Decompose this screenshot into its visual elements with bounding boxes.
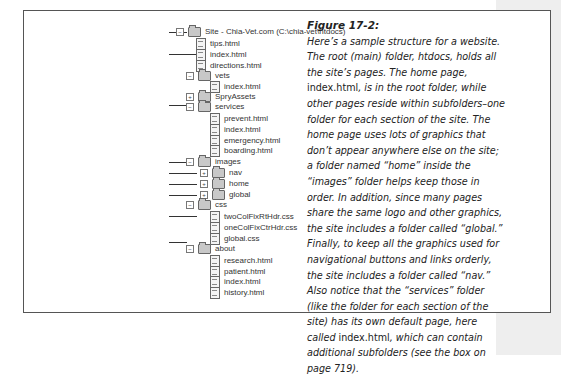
tree-item-label: SpryAssets	[215, 92, 255, 102]
caption-fragment: index.html	[339, 332, 390, 343]
leader-line	[169, 173, 197, 174]
tree-item-label: home	[229, 179, 249, 189]
tree-item-label: index.html	[210, 50, 246, 60]
file-icon	[210, 145, 220, 157]
tree-item-label: global	[229, 190, 250, 200]
caption-fragment: index.html	[307, 82, 358, 93]
tree-item-label: index.html	[224, 125, 260, 135]
tree-item-label: about	[215, 244, 235, 254]
collapse-icon[interactable]: −	[186, 103, 194, 111]
leader-line	[169, 242, 187, 243]
folder-icon	[212, 190, 225, 200]
figure-caption-body: Here’s a sample structure for a website.…	[307, 36, 505, 374]
tree-item-label: css	[215, 200, 227, 210]
folder-icon	[198, 71, 211, 81]
expand-icon[interactable]: +	[200, 169, 208, 177]
caption-fragment: Here’s a sample structure for a website.…	[307, 36, 500, 78]
leader-line	[169, 216, 197, 217]
leader-line	[169, 162, 187, 163]
folder-icon	[198, 200, 211, 210]
tree-file-item[interactable]: boarding.html	[210, 145, 272, 157]
tree-item-label: nav	[229, 168, 242, 178]
tree-file-item[interactable]: history.html	[210, 287, 264, 299]
tree-item-label: research.html	[224, 256, 272, 266]
collapse-icon[interactable]: −	[176, 28, 184, 36]
expand-icon[interactable]: +	[200, 180, 208, 188]
collapse-icon[interactable]: −	[186, 201, 194, 209]
collapse-icon[interactable]: −	[186, 72, 194, 80]
leader-line	[169, 184, 197, 185]
tree-item-label: vets	[215, 71, 230, 81]
tree-item-label: boarding.html	[224, 146, 272, 156]
tree-folder-item[interactable]: −css	[186, 200, 227, 210]
figure-title: Figure 17-2:	[307, 18, 507, 34]
folder-icon	[188, 27, 201, 37]
folder-icon	[198, 157, 211, 167]
tree-item-label: oneColFixCtrHdr.css	[224, 223, 297, 233]
caption-fragment: , is in the root folder, while other pag…	[307, 82, 505, 343]
file-icon	[210, 287, 220, 299]
expand-icon[interactable]: +	[186, 93, 194, 101]
tree-folder-item[interactable]: −services	[186, 102, 244, 112]
leader-line	[169, 195, 197, 196]
tree-item-label: history.html	[224, 288, 264, 298]
tree-item-label: index.html	[224, 82, 260, 92]
tree-folder-item[interactable]: −vets	[186, 71, 230, 81]
figure-caption: Figure 17-2: Here’s a sample structure f…	[307, 18, 507, 377]
leader-line	[169, 54, 197, 55]
tree-item-label: twoColFixRtHdr.css	[224, 212, 294, 222]
tree-item-label: tips.html	[210, 39, 240, 49]
folder-icon	[198, 244, 211, 254]
tree-folder-item[interactable]: +SpryAssets	[186, 92, 255, 102]
collapse-icon[interactable]: −	[186, 158, 194, 166]
tree-folder-item[interactable]: −about	[186, 244, 235, 254]
tree-item-label: prevent.html	[224, 114, 268, 124]
tree-item-label: services	[215, 102, 244, 112]
tree-item-label: global.css	[224, 234, 260, 244]
tree-item-label: directions.html	[210, 61, 262, 71]
collapse-icon[interactable]: −	[186, 245, 194, 253]
tree-folder-item[interactable]: +global	[200, 190, 250, 200]
tree-folder-item[interactable]: +nav	[200, 168, 242, 178]
folder-icon	[198, 102, 211, 112]
tree-folder-item[interactable]: +home	[200, 179, 249, 189]
leader-line	[169, 105, 187, 106]
tree-item-label: index.html	[224, 277, 260, 287]
